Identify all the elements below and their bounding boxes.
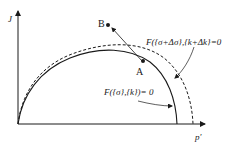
updated-yield-curve — [18, 45, 193, 124]
updated-curve-leader — [175, 47, 194, 78]
updated-curve-label: F({σ+Δσ},{k+Δk}=0 — [145, 37, 222, 47]
x-axis-label: p' — [194, 132, 203, 142]
point-b-label: B — [98, 18, 105, 29]
yield-surface-diagram: J p' A B F({σ+Δσ},{k+Δk}=0 F({σ},{k})= 0 — [0, 0, 248, 150]
y-axis-label: J — [8, 14, 13, 24]
stress-increment-arrow — [112, 28, 142, 61]
initial-curve-leader — [138, 101, 172, 106]
point-b-marker — [106, 23, 110, 27]
point-a-marker — [141, 59, 145, 63]
initial-curve-label: F({σ},{k})= 0 — [103, 87, 154, 97]
point-a-label: A — [136, 66, 144, 77]
